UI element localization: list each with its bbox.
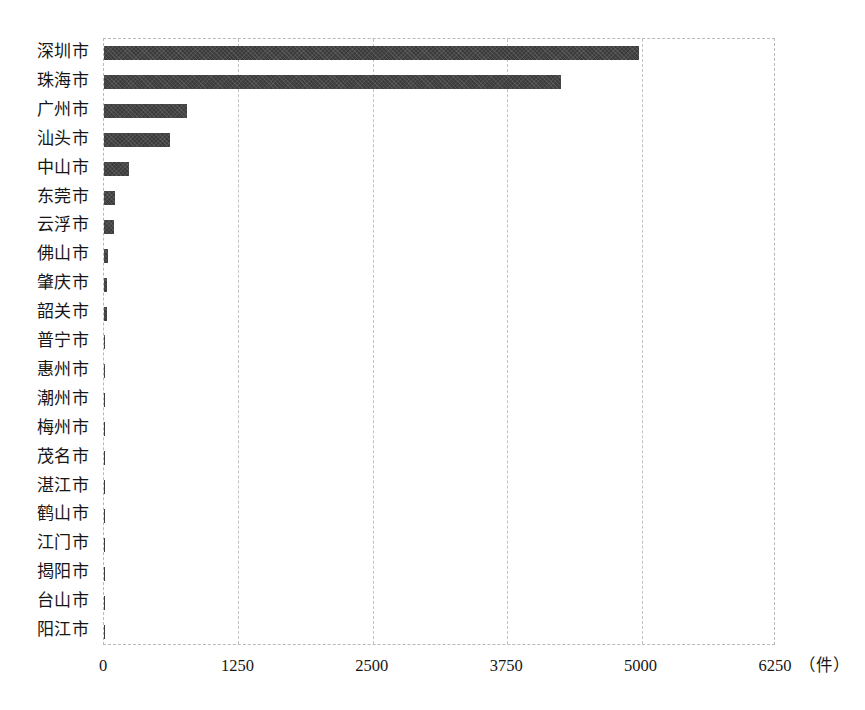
x-axis-tick-label: 2500 bbox=[355, 655, 388, 677]
bar-row bbox=[104, 68, 774, 97]
bar bbox=[104, 133, 170, 147]
y-axis-label: 汕头市 bbox=[37, 125, 90, 154]
bar-row bbox=[104, 241, 774, 270]
bar-row bbox=[104, 328, 774, 357]
y-axis-label: 广州市 bbox=[37, 96, 90, 125]
y-axis-label: 湛江市 bbox=[37, 472, 90, 501]
bar bbox=[104, 249, 108, 263]
bar-row bbox=[104, 386, 774, 415]
bar bbox=[104, 220, 114, 234]
y-axis-label: 台山市 bbox=[37, 587, 90, 616]
bar-row bbox=[104, 415, 774, 444]
bar-row bbox=[104, 617, 774, 646]
bar-row bbox=[104, 530, 774, 559]
plot-area bbox=[103, 38, 775, 645]
y-axis-label: 韶关市 bbox=[37, 298, 90, 327]
bar-chart: 深圳市珠海市广州市汕头市中山市东莞市云浮市佛山市肇庆市韶关市普宁市惠州市潮州市梅… bbox=[0, 0, 865, 710]
y-axis-category-labels: 深圳市珠海市广州市汕头市中山市东莞市云浮市佛山市肇庆市韶关市普宁市惠州市潮州市梅… bbox=[0, 38, 95, 645]
bar-row bbox=[104, 270, 774, 299]
x-axis-tick-label: 6250 bbox=[759, 655, 792, 677]
y-axis-label: 珠海市 bbox=[37, 67, 90, 96]
y-axis-label: 惠州市 bbox=[37, 356, 90, 385]
bar-row bbox=[104, 126, 774, 155]
y-axis-label: 中山市 bbox=[37, 154, 90, 183]
y-axis-label: 鹤山市 bbox=[37, 500, 90, 529]
y-axis-label: 佛山市 bbox=[37, 240, 90, 269]
x-axis-tick-labels: 012502500375050006250（件） bbox=[0, 655, 865, 685]
bar-row bbox=[104, 97, 774, 126]
y-axis-label: 潮州市 bbox=[37, 385, 90, 414]
bar-row bbox=[104, 444, 774, 473]
bar bbox=[104, 278, 107, 292]
y-axis-label: 普宁市 bbox=[37, 327, 90, 356]
y-axis-label: 江门市 bbox=[37, 529, 90, 558]
bar bbox=[104, 104, 187, 118]
x-axis-tick-label: 1250 bbox=[221, 655, 254, 677]
x-axis-tick-label: 0 bbox=[99, 655, 107, 677]
x-axis-unit-label: （件） bbox=[799, 655, 850, 677]
bar-row bbox=[104, 155, 774, 184]
bar-row bbox=[104, 559, 774, 588]
y-axis-label: 深圳市 bbox=[37, 38, 90, 67]
y-axis-label: 梅州市 bbox=[37, 414, 90, 443]
bar-row bbox=[104, 473, 774, 502]
bar-row bbox=[104, 184, 774, 213]
bar bbox=[104, 46, 639, 60]
bar-row bbox=[104, 39, 774, 68]
bar-row bbox=[104, 588, 774, 617]
bar-rows bbox=[104, 39, 774, 644]
bar bbox=[104, 307, 107, 321]
bar bbox=[104, 75, 561, 89]
x-axis-tick-label: 3750 bbox=[490, 655, 523, 677]
y-axis-label: 茂名市 bbox=[37, 443, 90, 472]
x-axis-tick-label: 5000 bbox=[624, 655, 657, 677]
bar bbox=[104, 335, 105, 349]
y-axis-label: 云浮市 bbox=[37, 211, 90, 240]
bar-row bbox=[104, 212, 774, 241]
y-axis-label: 揭阳市 bbox=[37, 558, 90, 587]
bar-row bbox=[104, 357, 774, 386]
bar bbox=[104, 364, 105, 378]
bar bbox=[104, 162, 129, 176]
y-axis-label: 肇庆市 bbox=[37, 269, 90, 298]
bar-row bbox=[104, 299, 774, 328]
y-axis-label: 东莞市 bbox=[37, 183, 90, 212]
bar bbox=[104, 191, 115, 205]
y-axis-label: 阳江市 bbox=[37, 616, 90, 645]
bar-row bbox=[104, 501, 774, 530]
